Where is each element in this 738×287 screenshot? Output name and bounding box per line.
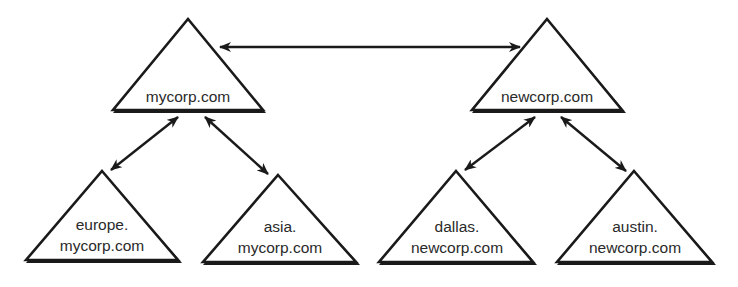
node-newcorp: newcorp.com (472, 19, 626, 113)
edge-mycorp-asia-arrow (205, 117, 268, 174)
node-label-line2: mycorp.com (60, 237, 144, 254)
node-label: mycorp.com (146, 88, 230, 105)
node-dallas: dallas. newcorp.com (379, 171, 537, 265)
node-label-line1: dallas. (435, 218, 480, 235)
node-label-line2: mycorp.com (238, 239, 322, 256)
node-label-line1: austin. (612, 218, 658, 235)
node-label: newcorp.com (501, 88, 593, 105)
edge-newcorp-dallas-arrow (465, 117, 535, 170)
node-label-line2: newcorp.com (411, 239, 503, 256)
node-mycorp: mycorp.com (113, 19, 266, 113)
node-europe: europe. mycorp.com (26, 171, 182, 263)
edge-mycorp-europe-arrow (111, 117, 178, 170)
node-label-line1: europe. (76, 216, 129, 233)
node-asia: asia. mycorp.com (203, 175, 360, 265)
node-label-line2: newcorp.com (589, 239, 681, 256)
edge-newcorp-austin-arrow (561, 117, 626, 171)
node-austin: austin. newcorp.com (557, 171, 716, 265)
domain-trust-diagram: mycorp.com newcorp.com europe. mycorp.co… (0, 0, 738, 287)
node-label-line1: asia. (264, 218, 297, 235)
